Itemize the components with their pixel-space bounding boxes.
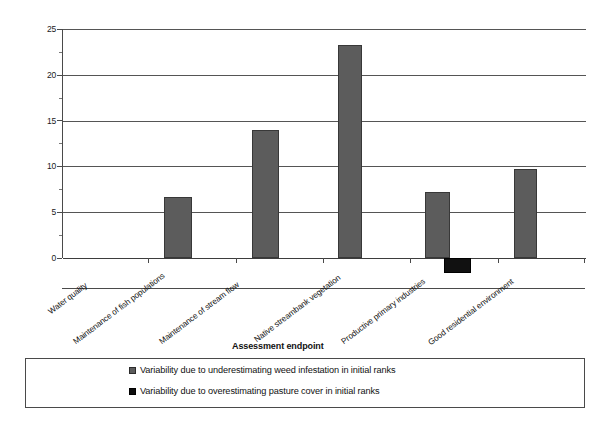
x-label-stream-flow: Maintenance of stream flow xyxy=(158,280,241,346)
legend: Variability due to underestimating weed … xyxy=(25,358,585,408)
x-axis-title: Assessment endpoint xyxy=(232,341,324,351)
bar-series1-cat2 xyxy=(164,197,192,258)
x-tick-mark xyxy=(323,258,324,263)
bar-series1-cat4 xyxy=(338,45,362,258)
bar-series1-cat5 xyxy=(425,192,450,258)
legend-item-1: Variability due to overestimating pastur… xyxy=(129,386,380,396)
x-label-water-quality: Water quality xyxy=(47,281,89,316)
x-tick-mark xyxy=(498,258,499,263)
x-tick-mark xyxy=(236,258,237,263)
bar-series1-cat3 xyxy=(252,130,279,258)
y-tick-mark-0 xyxy=(57,258,62,259)
plot-area xyxy=(62,29,585,258)
bar-series2-cat5 xyxy=(444,258,471,273)
y-tick-label-15: 15 xyxy=(30,116,56,126)
y-tick-label-5: 5 xyxy=(30,207,56,217)
x-tick-mark xyxy=(584,258,585,263)
gridline-10 xyxy=(63,166,586,167)
black-square-icon xyxy=(129,388,136,395)
gridline-15 xyxy=(63,121,586,122)
x-tick-mark xyxy=(410,258,411,263)
gridline-20 xyxy=(63,75,586,76)
x-label-fish-populations: Maintenance of fish populations xyxy=(72,271,167,346)
gray-square-icon xyxy=(129,367,136,374)
gridline-zero xyxy=(63,258,586,259)
y-tick-label-25: 25 xyxy=(30,24,56,34)
gridline-5 xyxy=(63,212,586,213)
bar-chart: 25 20 15 10 5 0 xyxy=(0,0,602,426)
y-tick-label-0: 0 xyxy=(30,253,56,263)
y-tick-label-20: 20 xyxy=(30,70,56,80)
legend-label-1: Variability due to overestimating pastur… xyxy=(140,386,380,396)
gridline-25 xyxy=(63,29,586,30)
x-tick-mark xyxy=(148,258,149,263)
x-label-streambank-vegetation: Native streambank vegetation xyxy=(253,273,343,344)
y-tick-label-10: 10 xyxy=(30,161,56,171)
bar-series1-cat6 xyxy=(514,169,537,258)
legend-item-0: Variability due to underestimating weed … xyxy=(129,365,396,375)
legend-label-0: Variability due to underestimating weed … xyxy=(140,365,396,375)
